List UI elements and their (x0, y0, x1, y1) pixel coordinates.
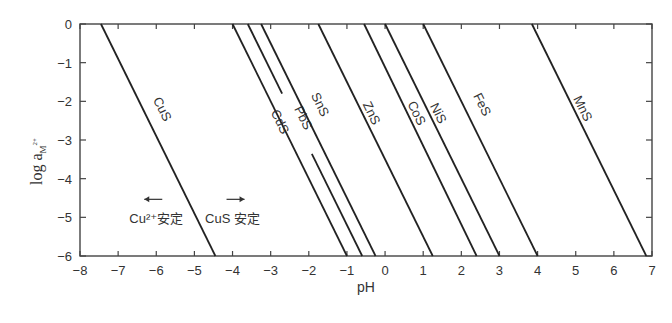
x-tick-label: 6 (610, 263, 617, 278)
y-tick-label: −4 (57, 172, 72, 187)
series-label-cus: CuS (150, 94, 175, 124)
series-line-sns (261, 24, 375, 256)
x-tick-label: −3 (263, 263, 278, 278)
x-tick-label: 5 (572, 263, 579, 278)
series-label-nis: NiS (427, 100, 450, 126)
x-tick-label: −7 (111, 263, 126, 278)
x-tick-label: −1 (340, 263, 355, 278)
series-line-cos (364, 24, 476, 256)
x-tick-label: −2 (301, 263, 316, 278)
series-line-pbs (312, 154, 362, 256)
series-label-fes: FeS (470, 90, 494, 118)
annotation-cus-stable: CuS 安定 (205, 211, 260, 226)
series-label-zns: ZnS (360, 99, 384, 127)
x-tick-label: 7 (648, 263, 655, 278)
y-tick-label: −3 (57, 133, 72, 148)
arrow-right-head-icon (240, 196, 245, 202)
y-axis-title: log aM2+ (28, 138, 48, 185)
y-tick-label: −6 (57, 249, 72, 264)
x-tick-label: 3 (496, 263, 503, 278)
x-axis-title: pH (357, 279, 375, 295)
x-tick-label: 2 (458, 263, 465, 278)
x-tick-label: −8 (73, 263, 88, 278)
series-line-fes (423, 24, 537, 256)
y-tick-label: −5 (57, 210, 72, 225)
arrow-left-head-icon (144, 196, 149, 202)
y-tick-label: 0 (65, 17, 72, 32)
x-tick-label: 4 (534, 263, 541, 278)
series-line-pbs (248, 24, 282, 94)
x-tick-label: −6 (149, 263, 164, 278)
x-tick-label: 0 (381, 263, 388, 278)
y-tick-label: −2 (57, 94, 72, 109)
series-label-sns: SnS (308, 90, 332, 119)
annotation-cu-stable: Cu²⁺安定 (129, 211, 183, 226)
plot-area: −8−7−6−5−4−3−2−1012345670−1−2−3−4−5−6CuS… (57, 17, 655, 278)
sulfide-stability-chart: log aM2+ −8−7−6−5−4−3−2−1012345670−1−2−3… (0, 0, 672, 323)
x-tick-label: −5 (187, 263, 202, 278)
series-line-zns (318, 24, 432, 256)
series-line-mns (532, 24, 646, 256)
x-tick-label: −4 (225, 263, 240, 278)
svg-text:log aM2+: log aM2+ (28, 138, 48, 185)
y-tick-label: −1 (57, 56, 72, 71)
series-line-nis (385, 24, 499, 256)
series-label-cds: CdS (268, 107, 293, 137)
x-tick-label: 1 (420, 263, 427, 278)
